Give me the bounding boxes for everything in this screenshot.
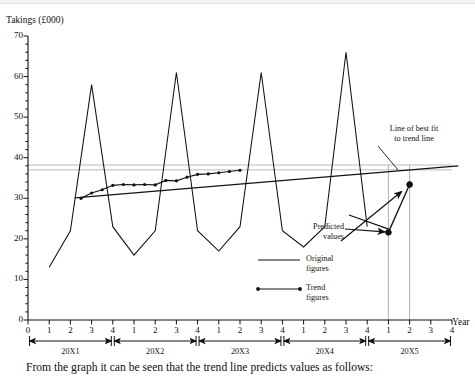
trend-figures-marker [196,173,199,176]
x-tick-label: 3 [82,325,102,335]
year-group-label-20X4: 20X4 [299,347,351,356]
x-tick-label: 4 [357,325,377,335]
trend-figures-marker [185,176,188,179]
x-tick-label: 3 [421,325,441,335]
x-tick-label: 1 [124,325,144,335]
predicted-points-connector [388,184,409,232]
x-axis-title: Year [452,317,470,327]
trend-figures-marker [228,170,231,173]
y-tick-label: 0 [2,314,23,324]
trend-figures-marker [164,179,167,182]
best-fit-line [75,166,459,198]
trend-figures-marker [101,188,104,191]
x-tick-label: 2 [230,325,250,335]
legend-item-original-figures: Original figures [306,254,333,273]
x-tick-label: 2 [315,325,335,335]
predicted-point-1 [386,229,392,235]
x-tick-label: 2 [145,325,165,335]
y-tick-label: 40 [2,152,23,162]
y-tick-label: 20 [2,233,23,243]
predicted-values-annotation-line1: Predicted [288,222,344,232]
x-tick-label: 4 [103,325,123,335]
year-group-label-20X2: 20X2 [129,347,181,356]
trend-figures-marker [154,183,157,186]
legend-item-trend-figures-line2: figures [306,293,329,303]
x-tick-label: 3 [251,325,271,335]
legend-item-trend-figures: Trend figures [306,283,329,302]
trend-figures-marker [79,197,82,200]
y-tick-label: 30 [2,192,23,202]
year-group-label-20X1: 20X1 [44,347,96,356]
trend-figures-marker [90,191,93,194]
y-tick-label: 10 [2,273,23,283]
trend-figures-marker [132,183,135,186]
year-group-label-20X5: 20X5 [384,347,436,356]
year-group-label-20X3: 20X3 [214,347,266,356]
x-tick-label: 1 [294,325,314,335]
x-tick-label: 2 [60,325,80,335]
trend-figures-marker [207,172,210,175]
x-tick-label: 1 [39,325,59,335]
x-tick-label: 4 [188,325,208,335]
trend-figures-marker [175,179,178,182]
trend-figures-marker [143,183,146,186]
x-tick-label: 3 [166,325,186,335]
x-tick-label: 0 [18,325,38,335]
best-fit-annotation-line1: Line of best fit [364,124,464,134]
legend-item-trend-figures-line1: Trend [306,283,329,293]
x-tick-label: 3 [336,325,356,335]
legend-item-original-figures-line1: Original [306,254,333,264]
predicted-values-leader-1 [345,229,385,232]
trend-figures-marker [122,183,125,186]
best-fit-annotation: Line of best fit to trend line [364,124,464,143]
x-tick-label: 2 [400,325,420,335]
best-fit-annotation-line2: to trend line [364,134,464,144]
chart-canvas [0,0,475,381]
trend-figures-marker [217,171,220,174]
legend-marker-trend-dot-right [298,287,302,291]
figure-container: Takings (£000) 0102030405060700123412341… [0,0,475,381]
x-tick-label: 1 [209,325,229,335]
y-tick-label: 60 [2,71,23,81]
legend-item-original-figures-line2: figures [306,264,333,274]
predicted-values-annotation-line2: values [288,232,344,242]
trend-figures-marker [238,169,241,172]
trend-figures-marker [111,184,114,187]
y-tick-label: 70 [2,30,23,40]
predicted-values-leader-2 [341,191,402,241]
x-tick-label: 4 [272,325,292,335]
predicted-values-annotation: Predicted values [288,222,344,241]
legend-marker-trend-dot-left [256,287,260,291]
y-tick-label: 50 [2,111,23,121]
figure-caption: From the graph it can be seen that the t… [26,361,466,374]
x-tick-label: 1 [378,325,398,335]
